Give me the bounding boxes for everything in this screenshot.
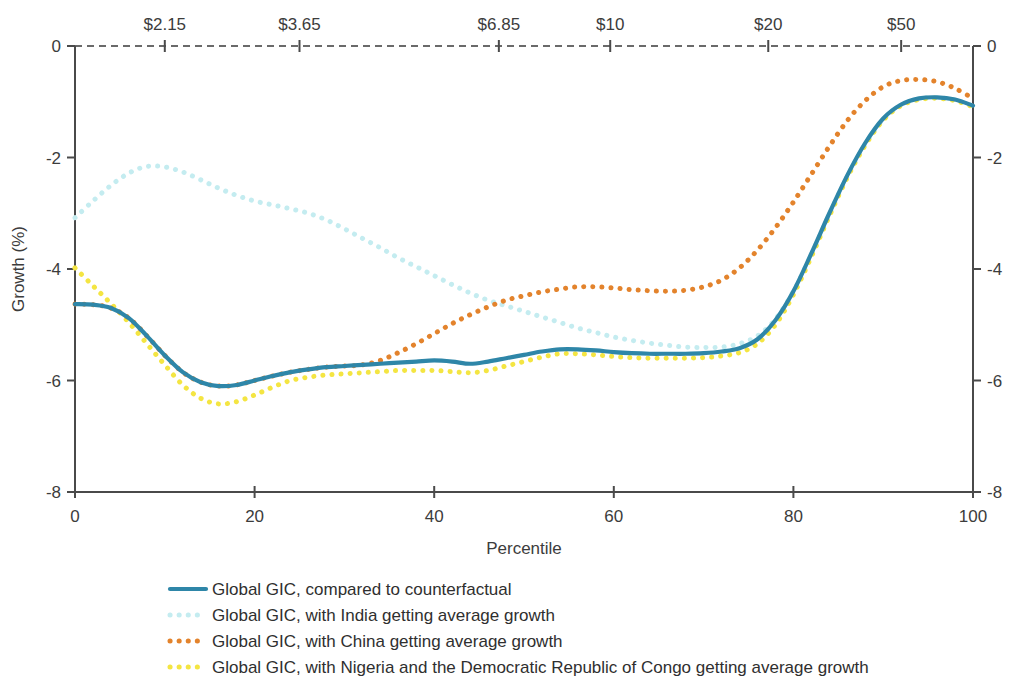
chart-canvas: $2.15$3.65$6.85$10$20$5000-2-2-4-4-6-6-8…	[0, 0, 1011, 695]
x-axis-tick-label: 40	[425, 507, 444, 526]
top-axis-tick-label: $2.15	[144, 15, 187, 34]
growth-incidence-curve-figure: $2.15$3.65$6.85$10$20$5000-2-2-4-4-6-6-8…	[0, 0, 1011, 695]
legend-label-3: Global GIC, with Nigeria and the Democra…	[212, 658, 869, 677]
legend-label-2: Global GIC, with China getting average g…	[212, 632, 563, 651]
y-axis-left-tick-label: -4	[46, 260, 61, 279]
legend-label-0: Global GIC, compared to counterfactual	[212, 580, 512, 599]
y-axis-left-tick-label: 0	[52, 37, 61, 56]
series-line-3	[75, 98, 973, 404]
top-axis-tick-label: $50	[887, 15, 915, 34]
x-axis-tick-label: 20	[245, 507, 264, 526]
top-axis-tick-label: $10	[596, 15, 624, 34]
x-axis-tick-label: 80	[784, 507, 803, 526]
y-axis-left-tick-label: -6	[46, 372, 61, 391]
x-axis-tick-label: 100	[959, 507, 987, 526]
y-axis-right-tick-label: -4	[987, 260, 1002, 279]
y-axis-right-tick-label: -8	[987, 483, 1002, 502]
x-axis-title: Percentile	[486, 539, 562, 558]
top-axis-tick-label: $6.85	[478, 15, 521, 34]
x-axis-tick-label: 60	[604, 507, 623, 526]
y-axis-right-tick-label: -6	[987, 372, 1002, 391]
legend-label-1: Global GIC, with India getting average g…	[212, 606, 555, 625]
top-axis-tick-label: $20	[754, 15, 782, 34]
y-axis-title: Growth (%)	[9, 226, 28, 312]
series-line-0	[75, 97, 973, 386]
top-axis-tick-label: $3.65	[278, 15, 321, 34]
y-axis-right-tick-label: -2	[987, 149, 1002, 168]
y-axis-left-tick-label: -2	[46, 149, 61, 168]
series-line-2	[75, 79, 973, 386]
y-axis-right-tick-label: 0	[987, 37, 996, 56]
x-axis-tick-label: 0	[70, 507, 79, 526]
y-axis-left-tick-label: -8	[46, 483, 61, 502]
